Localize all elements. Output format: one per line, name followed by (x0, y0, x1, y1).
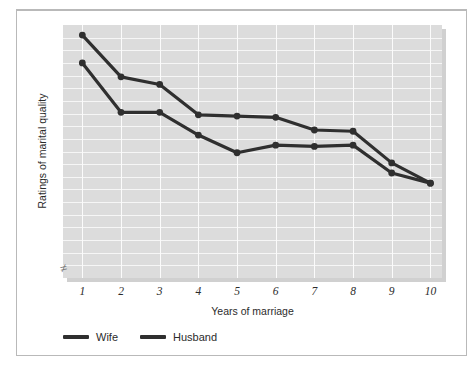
legend-line-swatch-icon (63, 335, 89, 339)
plot-series-layer (63, 25, 442, 278)
data-point-marker (156, 81, 163, 88)
data-point-marker (234, 149, 241, 156)
data-point-marker (388, 170, 395, 177)
data-point-marker (272, 114, 279, 121)
data-point-marker (350, 128, 357, 135)
data-point-marker (156, 109, 163, 116)
axis-break-icon: ≠ (58, 259, 75, 278)
legend-item-wife[interactable]: Wife (63, 331, 118, 343)
x-axis-tick-label: 3 (146, 285, 174, 297)
chart-legend: WifeHusband (63, 329, 217, 345)
data-point-marker (234, 113, 241, 120)
data-point-marker (79, 60, 86, 67)
legend-label: Husband (173, 331, 217, 343)
data-point-marker (311, 143, 318, 150)
x-axis-tick-label: 2 (107, 285, 135, 297)
data-point-marker (79, 32, 86, 39)
data-point-marker (388, 159, 395, 166)
data-point-marker (427, 180, 434, 187)
data-point-marker (118, 109, 125, 116)
x-axis-tick-label: 8 (339, 285, 367, 297)
x-axis-tick-label: 10 (416, 285, 444, 297)
data-point-marker (311, 127, 318, 134)
x-axis-tick-label: 7 (300, 285, 328, 297)
data-point-marker (195, 111, 202, 118)
series-line (82, 35, 430, 183)
x-axis-tick-label: 6 (262, 285, 290, 297)
x-axis-tick-label: 9 (378, 285, 406, 297)
legend-line-swatch-icon (140, 335, 166, 339)
marital-quality-line-chart: ≠ 12345678910 Years of marriage Ratings … (0, 0, 474, 368)
y-axis-title: Ratings of marital quality (36, 51, 48, 251)
data-point-marker (118, 73, 125, 80)
x-axis-tick-label: 4 (184, 285, 212, 297)
x-axis-tick-labels: 12345678910 (63, 285, 442, 301)
data-point-marker (195, 132, 202, 139)
x-axis-title: Years of marriage (63, 305, 442, 317)
data-point-marker (350, 142, 357, 149)
legend-label: Wife (96, 331, 118, 343)
legend-item-husband[interactable]: Husband (140, 331, 217, 343)
data-point-marker (272, 142, 279, 149)
x-axis-tick-label: 1 (68, 285, 96, 297)
x-axis-tick-label: 5 (223, 285, 251, 297)
